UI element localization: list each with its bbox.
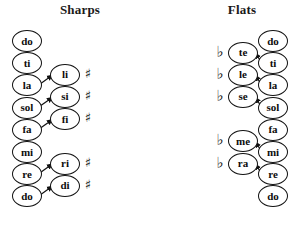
- note-label: re: [268, 169, 278, 180]
- note-label: si: [61, 91, 68, 102]
- note-label: do: [267, 191, 279, 202]
- sharps-main-note-fa-4[interactable]: fa: [12, 119, 42, 141]
- flats-main-note-sol-3[interactable]: sol: [258, 97, 288, 119]
- sharps-sharp-symbol-li: ♯: [82, 67, 94, 80]
- note-label: ri: [61, 158, 69, 169]
- flats-altered-note-ra[interactable]: ra: [228, 153, 258, 175]
- note-node-layer: dotilasolfamiredoli♯si♯fi♯ri♯di♯dotilaso…: [0, 0, 308, 230]
- flats-flat-symbol-se: ♭: [214, 89, 226, 104]
- sharps-main-note-do-0[interactable]: do: [12, 30, 42, 52]
- note-label: do: [267, 36, 279, 47]
- note-label: do: [21, 36, 33, 47]
- flats-main-note-do-0[interactable]: do: [258, 30, 288, 52]
- note-label: li: [62, 69, 68, 80]
- flats-flat-symbol-te: ♭: [214, 45, 226, 60]
- sharps-main-note-do-7[interactable]: do: [12, 185, 42, 207]
- note-label: fa: [268, 124, 277, 135]
- note-label: la: [269, 80, 278, 91]
- note-label: mi: [21, 147, 33, 158]
- sharps-altered-note-li[interactable]: li: [50, 64, 80, 86]
- note-label: la: [23, 80, 32, 91]
- flats-altered-note-se[interactable]: se: [228, 86, 258, 108]
- flats-main-note-fa-4[interactable]: fa: [258, 119, 288, 141]
- note-label: te: [239, 47, 248, 58]
- note-label: sol: [267, 102, 280, 113]
- flats-main-note-la-2[interactable]: la: [258, 74, 288, 96]
- flats-main-note-re-6[interactable]: re: [258, 163, 288, 185]
- flats-flat-symbol-me: ♭: [214, 133, 226, 148]
- note-label: fi: [62, 114, 69, 125]
- flats-main-note-do-7[interactable]: do: [258, 185, 288, 207]
- note-label: di: [60, 180, 69, 191]
- sharps-main-note-ti-1[interactable]: ti: [12, 52, 42, 74]
- note-label: do: [21, 191, 33, 202]
- sharps-sharp-symbol-si: ♯: [82, 89, 94, 102]
- note-label: re: [22, 169, 32, 180]
- flats-altered-note-le[interactable]: le: [228, 64, 258, 86]
- note-label: me: [236, 136, 250, 147]
- sharps-altered-note-fi[interactable]: fi: [50, 108, 80, 130]
- sharps-main-note-sol-3[interactable]: sol: [12, 97, 42, 119]
- note-label: ti: [270, 58, 277, 69]
- flats-flat-symbol-le: ♭: [214, 67, 226, 82]
- flats-main-note-ti-1[interactable]: ti: [258, 52, 288, 74]
- flats-altered-note-te[interactable]: te: [228, 42, 258, 64]
- sharps-altered-note-ri[interactable]: ri: [50, 153, 80, 175]
- sharps-main-note-re-6[interactable]: re: [12, 163, 42, 185]
- sharps-altered-note-si[interactable]: si: [50, 86, 80, 108]
- sharps-altered-note-di[interactable]: di: [50, 175, 80, 197]
- sharps-main-note-la-2[interactable]: la: [12, 74, 42, 96]
- note-label: fa: [22, 124, 31, 135]
- note-label: le: [239, 69, 247, 80]
- flats-flat-symbol-ra: ♭: [214, 156, 226, 171]
- note-label: ti: [24, 58, 31, 69]
- note-label: sol: [21, 102, 34, 113]
- flats-altered-note-me[interactable]: me: [228, 130, 258, 152]
- sharps-sharp-symbol-ri: ♯: [82, 156, 94, 169]
- note-label: ra: [238, 158, 248, 169]
- note-label: se: [238, 91, 247, 102]
- sharps-sharp-symbol-fi: ♯: [82, 111, 94, 124]
- note-label: mi: [267, 147, 279, 158]
- solfege-chart: Sharps Flats dotilasolfamiredoli♯si♯fi♯r…: [0, 0, 308, 230]
- sharps-sharp-symbol-di: ♯: [82, 178, 94, 191]
- flats-main-note-mi-5[interactable]: mi: [258, 141, 288, 163]
- sharps-main-note-mi-5[interactable]: mi: [12, 141, 42, 163]
